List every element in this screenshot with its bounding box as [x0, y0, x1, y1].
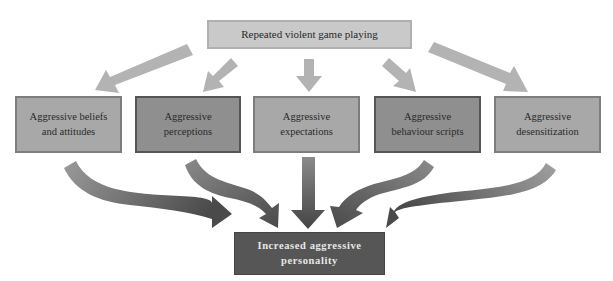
- mediator-box-desensitization: Aggressive desensitization: [494, 96, 601, 153]
- arrow-from-mediator-4: [330, 160, 434, 228]
- source-label: Repeated violent game playing: [241, 27, 378, 42]
- arrow-to-mediator-3: [296, 59, 322, 92]
- mediator-box-perceptions: Aggressive perceptions: [135, 96, 241, 153]
- mediator-label-line2: and attitudes: [30, 125, 108, 139]
- arrow-to-mediator-2: [203, 58, 238, 92]
- arrow-to-mediator-5: [428, 42, 528, 92]
- mediator-box-beliefs-attitudes: Aggressive beliefs and attitudes: [15, 96, 122, 153]
- mediator-label-line1: Aggressive: [391, 110, 463, 124]
- arrow-to-mediator-1: [95, 44, 193, 93]
- mediator-box-behaviour-scripts: Aggressive behaviour scripts: [374, 96, 481, 153]
- mediator-label-line1: Aggressive: [280, 110, 332, 124]
- mediator-label-line1: Aggressive: [164, 110, 212, 124]
- outcome-label-line2: personality: [257, 254, 361, 268]
- outcome-box: Increased aggressive personality: [234, 232, 385, 275]
- mediator-box-expectations: Aggressive expectations: [253, 96, 360, 153]
- source-to-mediator-arrows: [95, 42, 528, 93]
- arrow-to-mediator-4: [382, 58, 416, 92]
- mediator-label-line2: perceptions: [164, 125, 212, 139]
- arrow-from-mediator-2: [185, 159, 279, 228]
- arrow-from-mediator-3: [291, 157, 325, 229]
- outcome-label-line1: Increased aggressive: [257, 239, 361, 253]
- mediator-label-line1: Aggressive: [516, 110, 578, 124]
- arrow-from-mediator-1: [64, 161, 232, 228]
- source-box: Repeated violent game playing: [207, 20, 412, 49]
- mediator-label-line2: desensitization: [516, 125, 578, 139]
- mediator-label-line1: Aggressive beliefs: [30, 110, 108, 124]
- mediator-label-line2: behaviour scripts: [391, 125, 463, 139]
- mediator-label-line2: expectations: [280, 125, 332, 139]
